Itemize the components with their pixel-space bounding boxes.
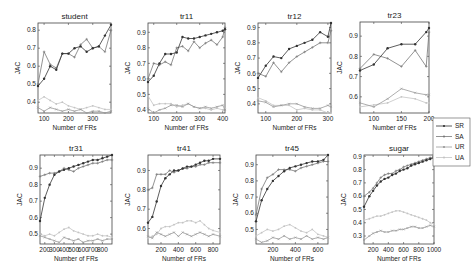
y-tick-label: 0.5 — [27, 80, 36, 87]
legend-marker-icon — [443, 135, 445, 137]
y-tick-label: 0.8 — [353, 166, 362, 173]
chart-canvas: student1002003000.40.50.60.70.8Number of… — [0, 0, 472, 278]
x-tick-label: 200 — [267, 246, 278, 253]
y-tick-label: 0.7 — [27, 44, 36, 51]
y-tick-label: 0.9 — [137, 29, 146, 36]
x-tick-label: 200 — [368, 246, 379, 253]
y-tick-label: 0.6 — [245, 209, 254, 216]
y-tick-label: 0.5 — [245, 226, 254, 233]
plot-area — [364, 155, 434, 244]
chart-panel-tr31: tr312003004005006007008000.50.60.70.80.9… — [16, 144, 113, 262]
y-axis-label: JAC — [124, 193, 131, 206]
y-tick-label: 0.7 — [247, 54, 256, 61]
x-tick-label: 800 — [413, 246, 424, 253]
chart-panel-tr45: tr452004006000.50.60.70.80.9Number of FR… — [232, 144, 329, 262]
x-tick-label: 600 — [312, 246, 323, 253]
y-tick-label: 0.4 — [353, 219, 362, 226]
y-tick-label: 0.9 — [353, 153, 362, 160]
panel-title: tr11 — [180, 12, 194, 21]
y-tick-label: 0.5 — [137, 91, 146, 98]
y-axis-label: JAC — [340, 193, 347, 206]
x-axis-label: Number of FRs — [377, 255, 422, 262]
x-tick-label: 300 — [322, 115, 333, 122]
x-tick-label: 800 — [97, 246, 108, 253]
legend-label: UA — [455, 154, 465, 161]
y-axis-label: JAC — [124, 62, 131, 75]
y-tick-label: 0.8 — [349, 53, 358, 60]
x-tick-label: 100 — [39, 115, 50, 122]
chart-panel-tr41: tr412004006008000.60.70.80.9Number of FR… — [124, 144, 221, 262]
y-tick-label: 0.6 — [349, 93, 358, 100]
x-tick-label: 400 — [290, 246, 301, 253]
legend-label: UR — [455, 143, 465, 150]
x-axis-label: Number of FRs — [270, 255, 315, 262]
x-tick-label: 100 — [368, 115, 379, 122]
x-tick-label: 100 — [260, 115, 271, 122]
x-axis-label: Number of FRs — [52, 124, 97, 131]
panel-title: student — [61, 12, 88, 21]
y-tick-label: 0.3 — [353, 232, 362, 239]
y-tick-label: 0.8 — [247, 39, 256, 46]
x-tick-label: 200 — [156, 246, 167, 253]
plot-area — [256, 155, 328, 244]
x-axis-label: Number of FRs — [372, 124, 417, 131]
panel-title: tr41 — [177, 144, 191, 153]
x-tick-label: 200 — [291, 115, 302, 122]
y-tick-label: 0.4 — [247, 100, 256, 107]
x-tick-label: 200 — [63, 115, 74, 122]
x-tick-label: 150 — [396, 115, 407, 122]
y-tick-label: 0.6 — [353, 192, 362, 199]
panel-title: sugar — [389, 144, 409, 153]
plot-area — [360, 22, 429, 113]
legend-marker-icon — [443, 125, 445, 127]
y-tick-label: 0.5 — [29, 230, 38, 237]
x-tick-label: 400 — [173, 246, 184, 253]
x-axis-label: Number of FRs — [162, 255, 207, 262]
chart-panel-student: student1002003000.40.50.60.70.8Number of… — [14, 12, 112, 131]
plot-area — [40, 155, 112, 244]
plot-area — [148, 23, 225, 113]
x-axis-label: Number of FRs — [272, 124, 317, 131]
y-tick-label: 0.7 — [137, 60, 146, 67]
legend-label: SR — [455, 122, 464, 129]
y-tick-label: 0.9 — [29, 164, 38, 171]
y-axis-label: JAC — [234, 62, 241, 75]
y-tick-label: 0.8 — [29, 181, 38, 188]
x-tick-label: 300 — [194, 115, 205, 122]
legend-marker-icon — [443, 146, 445, 148]
x-tick-label: 200 — [171, 115, 182, 122]
figure: student1002003000.40.50.60.70.8Number of… — [0, 0, 472, 278]
chart-panel-tr23: tr231001502000.60.70.80.9Number of FRsJA… — [336, 11, 435, 131]
panel-title: tr31 — [69, 144, 83, 153]
x-tick-label: 300 — [87, 115, 98, 122]
chart-panel-tr12: tr121002003000.40.50.60.70.80.9Number of… — [234, 12, 334, 131]
y-tick-label: 0.9 — [245, 161, 254, 168]
legend-label: SA — [455, 133, 464, 140]
x-tick-label: 100 — [148, 115, 159, 122]
y-tick-label: 0.8 — [137, 186, 146, 193]
x-axis-label: Number of FRs — [54, 255, 99, 262]
x-tick-label: 800 — [208, 246, 219, 253]
x-tick-label: 1000 — [427, 246, 442, 253]
y-axis-label: JAC — [16, 193, 23, 206]
y-tick-label: 0.5 — [353, 206, 362, 213]
chart-panel-tr11: tr111002003004000.40.50.60.70.80.9Number… — [124, 12, 229, 131]
y-tick-label: 0.6 — [29, 214, 38, 221]
y-tick-label: 0.4 — [137, 106, 146, 113]
panel-title: tr23 — [388, 11, 402, 20]
y-tick-label: 0.7 — [353, 179, 362, 186]
panel-title: tr45 — [285, 144, 299, 153]
y-tick-label: 0.4 — [27, 98, 36, 105]
y-tick-label: 0.6 — [27, 62, 36, 69]
chart-panel-sugar: sugar20040060080010000.30.40.50.60.70.80… — [340, 144, 442, 262]
x-axis-label: Number of FRs — [164, 124, 209, 131]
y-tick-label: 0.7 — [349, 73, 358, 80]
y-tick-label: 0.8 — [245, 177, 254, 184]
y-tick-label: 0.7 — [137, 205, 146, 212]
plot-area — [258, 23, 331, 113]
y-tick-label: 0.9 — [247, 24, 256, 31]
x-tick-label: 400 — [217, 115, 228, 122]
y-axis-label: JAC — [14, 62, 21, 75]
y-tick-label: 0.7 — [29, 197, 38, 204]
y-tick-label: 0.5 — [247, 85, 256, 92]
